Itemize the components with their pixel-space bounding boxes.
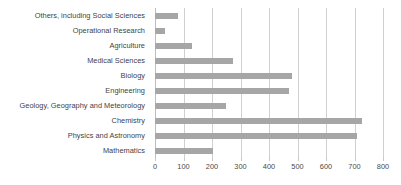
category-label: Agriculture: [0, 38, 150, 53]
axis-tick-label: 800: [377, 163, 389, 170]
axis-tick-mark: [241, 158, 242, 161]
bar-row: [155, 83, 383, 98]
bar: [155, 103, 226, 109]
bar-row: [155, 128, 383, 143]
axis-tick-label: 200: [206, 163, 218, 170]
bar-row: [155, 53, 383, 68]
axis-tick-mark: [383, 158, 384, 161]
category-label: Geology, Geography and Meteorology: [0, 98, 150, 113]
axis-tick-label: 500: [291, 163, 303, 170]
bar: [155, 73, 292, 79]
bars-layer: [155, 8, 383, 158]
bar: [155, 43, 192, 49]
bar: [155, 58, 233, 64]
axis-tick-label: 0: [153, 163, 157, 170]
axis-tick-label: 700: [348, 163, 360, 170]
axis-tick-label: 600: [320, 163, 332, 170]
axis-tick-label: 400: [263, 163, 275, 170]
axis-tick-label: 100: [177, 163, 189, 170]
axis-tick-mark: [298, 158, 299, 161]
bar: [155, 118, 362, 124]
axis-tick-mark: [155, 158, 156, 161]
category-axis: Others, including Social Sciences Operat…: [0, 8, 150, 158]
bar-row: [155, 23, 383, 38]
bar-row: [155, 68, 383, 83]
bar: [155, 13, 178, 19]
value-axis: 0100200300400500600700800: [155, 158, 383, 180]
bar-row: [155, 113, 383, 128]
axis-tick-label: 300: [234, 163, 246, 170]
bar: [155, 28, 165, 34]
bar-row: [155, 8, 383, 23]
axis-tick-mark: [355, 158, 356, 161]
bar-row: [155, 143, 383, 158]
bar-row: [155, 98, 383, 113]
category-label: Operational Research: [0, 23, 150, 38]
category-label: Chemistry: [0, 113, 150, 128]
horizontal-bar-chart: Others, including Social Sciences Operat…: [0, 0, 401, 185]
bar: [155, 133, 357, 139]
axis-tick-mark: [212, 158, 213, 161]
category-label: Others, including Social Sciences: [0, 8, 150, 23]
axis-tick-mark: [269, 158, 270, 161]
category-label: Engineering: [0, 83, 150, 98]
category-label: Medical Sciences: [0, 53, 150, 68]
plot-area: [155, 8, 383, 158]
category-label: Mathematics: [0, 143, 150, 158]
bar-row: [155, 38, 383, 53]
bar: [155, 88, 289, 94]
axis-tick-mark: [184, 158, 185, 161]
axis-tick-mark: [326, 158, 327, 161]
category-label: Biology: [0, 68, 150, 83]
gridline: [383, 8, 384, 158]
bar: [155, 148, 213, 154]
category-label: Physics and Astronomy: [0, 128, 150, 143]
